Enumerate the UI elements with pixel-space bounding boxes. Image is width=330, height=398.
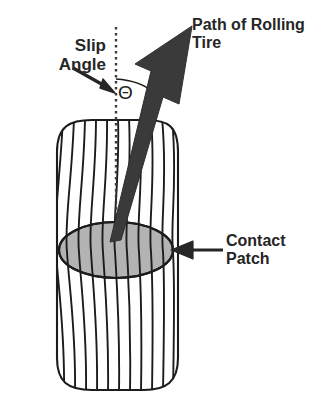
slip-angle-label: Slip Angle [14, 36, 106, 74]
path-of-rolling-tire-label: Path of Rolling Tire [192, 16, 328, 52]
theta-angle-symbol: Θ [118, 82, 133, 104]
tire-slip-angle-diagram: Slip Angle Path of Rolling Tire Contact … [0, 0, 330, 398]
contact-patch-label: Contact Patch [226, 232, 328, 268]
